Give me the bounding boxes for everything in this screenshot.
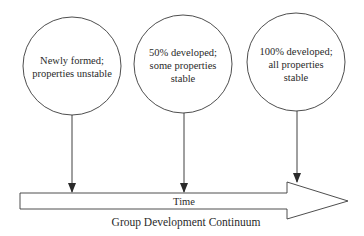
time-label: Time xyxy=(173,196,195,207)
stage-2-arrowhead-icon xyxy=(180,183,188,193)
stage-1-circle xyxy=(23,17,121,115)
stage-1-line-2: properties unstable xyxy=(32,68,112,79)
stage-1-arrowhead-icon xyxy=(68,183,76,193)
stage-3-line-1: 100% developed; xyxy=(259,46,332,57)
stage-3-arrowhead-icon xyxy=(293,173,301,183)
stage-2-line-2: some properties xyxy=(150,60,217,71)
stage-3-line-3: stable xyxy=(284,72,309,83)
stage-3: 100% developed; all properties stable xyxy=(247,13,345,183)
stage-2-line-3: stable xyxy=(171,73,196,84)
diagram-caption: Group Development Continuum xyxy=(112,216,261,229)
stage-2: 50% developed; some properties stable xyxy=(134,15,232,193)
stage-1-line-1: Newly formed; xyxy=(40,55,104,66)
stage-2-line-1: 50% developed; xyxy=(149,47,217,58)
group-development-diagram: Newly formed; properties unstable 50% de… xyxy=(0,0,364,236)
stage-1: Newly formed; properties unstable xyxy=(23,17,121,193)
stage-3-line-2: all properties xyxy=(268,59,323,70)
